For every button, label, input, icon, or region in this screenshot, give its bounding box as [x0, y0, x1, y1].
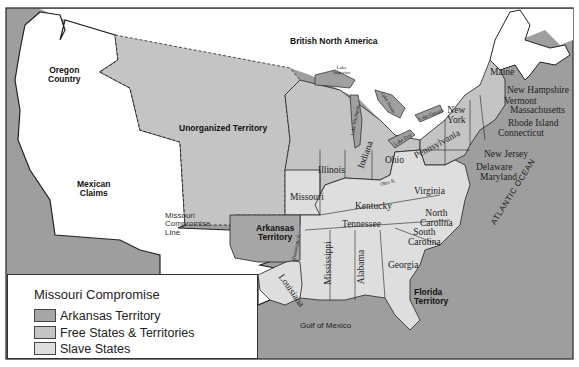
label-kentucky: Kentucky: [355, 202, 392, 212]
label-new-york: New York: [447, 106, 466, 126]
label-maine: Maine: [490, 68, 514, 78]
label-oregon-country: Oregon Country: [48, 66, 81, 84]
label-missouri: Missouri: [290, 193, 324, 203]
label-alabama: Alabama: [357, 250, 367, 284]
legend-item-free-states: Free States & Territories: [34, 325, 195, 340]
label-lake-superior: Lake Superior: [333, 65, 350, 76]
label-new-hampshire: New Hampshire: [507, 86, 569, 96]
legend-label: Free States & Territories: [60, 326, 195, 340]
label-tennessee: Tennessee: [342, 220, 381, 230]
label-connecticut: Connecticut: [498, 129, 544, 139]
label-south-carolina: South Carolina: [408, 228, 441, 248]
legend-label: Arkansas Territory: [60, 309, 161, 323]
legend-label: Slave States: [60, 342, 130, 356]
label-mississippi: Mississippi: [324, 241, 334, 284]
legend-swatch-arkansas: [34, 309, 56, 322]
legend-item-arkansas-territory: Arkansas Territory: [34, 308, 161, 323]
map-legend: Missouri Compromise Arkansas Territory F…: [7, 274, 258, 359]
label-arkansas-territory: Arkansas Territory: [256, 224, 294, 242]
label-virginia: Virginia: [414, 187, 445, 197]
legend-swatch-slave: [34, 342, 56, 355]
label-gulf-of-mexico: Gulf of Mexico: [300, 322, 351, 330]
legend-item-slave-states: Slave States: [34, 341, 130, 356]
label-florida-territory: Florida Territory: [414, 288, 448, 306]
label-unorganized-territory: Unorganized Territory: [179, 124, 267, 133]
label-maryland: Maryland: [480, 173, 517, 183]
legend-swatch-free: [34, 326, 56, 339]
legend-title: Missouri Compromise: [34, 287, 160, 302]
label-ohio: Ohio: [385, 156, 404, 166]
label-georgia: Georgia: [388, 261, 418, 271]
label-new-jersey: New Jersey: [484, 150, 528, 160]
label-illinois: Illinois: [318, 166, 345, 176]
label-mexican-claims: Mexican Claims: [77, 180, 111, 198]
label-massachusetts: Massachusetts: [510, 106, 565, 116]
label-missouri-compromise-line: Missouri Compromise Line: [165, 212, 210, 237]
label-north-carolina: North Carolina: [420, 209, 453, 229]
label-british-north-america: British North America: [290, 37, 378, 46]
